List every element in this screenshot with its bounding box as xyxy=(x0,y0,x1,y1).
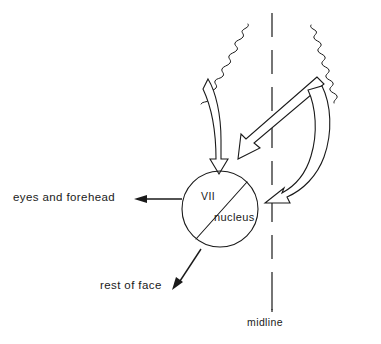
rest-of-face-arrow-shaft xyxy=(180,249,201,281)
nucleus-vii-label: VII xyxy=(201,190,215,202)
rest-of-face-label: rest of face xyxy=(100,279,162,291)
facial-nerve-diagram xyxy=(0,0,381,344)
midline-label: midline xyxy=(247,316,283,328)
eyes-forehead-arrowhead xyxy=(134,195,147,203)
eyes-and-forehead-label: eyes and forehead xyxy=(13,191,115,203)
diagram-canvas: eyes and forehead rest of face midline V… xyxy=(0,0,381,344)
nucleus-word-label: nucleus xyxy=(214,211,255,223)
left-descending-arrow xyxy=(203,79,228,174)
